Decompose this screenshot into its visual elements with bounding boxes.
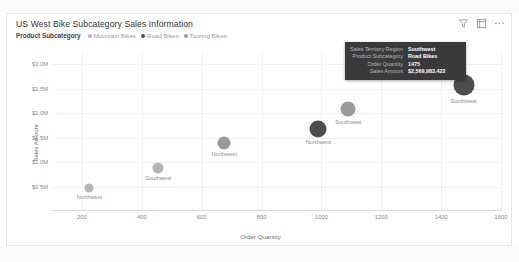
- x-axis-tick-label: 1000: [315, 214, 328, 220]
- gridline-horizontal: [52, 113, 501, 114]
- chart-bubble-label: Northwest: [306, 139, 331, 145]
- x-axis-tick-label: 600: [197, 214, 207, 220]
- tooltip-value: Road Bikes: [408, 53, 460, 60]
- page-background-bottom: [0, 246, 519, 262]
- chart-bubble-label: Northwest: [77, 194, 102, 200]
- chart-bubble-label: Northwest: [212, 151, 237, 157]
- tooltip-key: Order Quantity: [368, 61, 403, 68]
- gridline-vertical: [501, 52, 502, 211]
- y-axis-tick-label: $2.0M: [32, 110, 48, 116]
- chart-bubble[interactable]: [310, 120, 327, 137]
- x-axis-tick-label: 1200: [375, 214, 388, 220]
- visual-header-icons: [458, 18, 505, 29]
- report-visual-card: US West Bike Subcategory Sales Informati…: [6, 13, 512, 246]
- y-axis-tick-label: $1.5M: [32, 135, 48, 141]
- chart-bubble[interactable]: [218, 136, 231, 149]
- chart-legend: Product Subcategory Mountain Bikes Road …: [16, 32, 227, 39]
- legend-label-road-bikes: Road Bikes: [147, 32, 179, 39]
- y-axis-tick-label: $3.0M: [32, 61, 48, 67]
- y-axis-title: Sales Amount: [33, 124, 39, 161]
- legend-item-road-bikes[interactable]: Road Bikes: [141, 32, 179, 39]
- page-title: US West Bike Subcategory Sales Informati…: [16, 19, 193, 29]
- legend-dot-mountain-bikes: [88, 34, 92, 38]
- tooltip-row: Order Quantity 1475: [350, 61, 460, 68]
- tooltip-row: Sales Amount $2,569,983.422: [350, 68, 460, 75]
- tooltip-key: Sales Territory Region: [350, 46, 403, 53]
- x-axis-tick-label: 400: [137, 214, 147, 220]
- tooltip-value: $2,569,983.422: [408, 68, 460, 75]
- chart-bubble[interactable]: [153, 162, 164, 173]
- y-axis-tick-label: $2.5M: [32, 86, 48, 92]
- tooltip-value: Southwest: [408, 46, 460, 53]
- gridline-horizontal: [52, 187, 501, 188]
- x-axis-tick-label: 800: [257, 214, 267, 220]
- filter-icon[interactable]: [458, 18, 469, 29]
- legend-item-mountain-bikes[interactable]: Mountain Bikes: [88, 32, 136, 39]
- gridline-horizontal: [52, 162, 501, 163]
- chart-bubble[interactable]: [341, 102, 356, 117]
- tooltip-row: Product Subcategory Road Bikes: [350, 53, 460, 60]
- x-axis-tick-label: 1400: [435, 214, 448, 220]
- chart-bubble[interactable]: [85, 183, 94, 192]
- focus-mode-icon[interactable]: [476, 18, 487, 29]
- tooltip-value: 1475: [408, 61, 460, 68]
- chart-bubble-label: Southwest: [335, 119, 361, 125]
- x-axis-tick-label: 1600: [495, 214, 508, 220]
- chart-bubble-label: Southwest: [451, 98, 477, 104]
- data-point-tooltip: Sales Territory Region Southwest Product…: [345, 42, 466, 80]
- legend-item-touring-bikes[interactable]: Touring Bikes: [184, 32, 227, 39]
- legend-dot-road-bikes: [141, 34, 145, 38]
- more-options-icon[interactable]: [494, 18, 505, 29]
- x-axis-line: [52, 210, 501, 211]
- legend-label-mountain-bikes: Mountain Bikes: [94, 32, 136, 39]
- tooltip-row: Sales Territory Region Southwest: [350, 46, 460, 53]
- chart-bubble-label: Southwest: [145, 175, 171, 181]
- y-axis-tick-label: $0.5M: [32, 184, 48, 190]
- legend-label-touring-bikes: Touring Bikes: [190, 32, 227, 39]
- x-axis-tick-label: 200: [77, 214, 87, 220]
- screenshot-root: US West Bike Subcategory Sales Informati…: [0, 0, 519, 262]
- gridline-horizontal: [52, 89, 501, 90]
- tooltip-key: Sales Amount: [370, 68, 403, 75]
- legend-dot-touring-bikes: [184, 34, 188, 38]
- tooltip-key: Product Subcategory: [353, 53, 403, 60]
- x-axis-title: Order Quantity: [240, 233, 281, 240]
- legend-title: Product Subcategory: [16, 32, 81, 39]
- y-axis-tick-label: $1.0M: [32, 159, 48, 165]
- gridline-horizontal: [52, 138, 501, 139]
- page-background-top: [0, 0, 519, 13]
